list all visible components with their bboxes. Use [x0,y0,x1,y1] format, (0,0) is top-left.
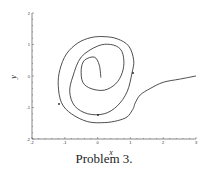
svg-text:3: 3 [195,140,198,145]
svg-text:2: 2 [28,11,31,16]
x-ticks: -2-10123 [30,137,198,145]
trajectory-marker [97,114,99,116]
y-axis-label: y [9,75,18,80]
svg-text:0: 0 [96,140,99,145]
svg-text:1: 1 [129,140,132,145]
svg-text:2: 2 [162,140,165,145]
figure-caption: Problem 3. [0,151,208,167]
trajectory-marker [58,103,60,105]
svg-text:-2: -2 [30,140,34,145]
svg-text:-1: -1 [63,140,67,145]
svg-text:-1: -1 [26,105,30,110]
svg-text:1: 1 [28,42,31,47]
trajectory-marker [132,72,134,74]
trajectory-curve [58,37,196,123]
y-ticks: 210-1-2 [26,11,34,142]
svg-text:0: 0 [28,74,31,79]
